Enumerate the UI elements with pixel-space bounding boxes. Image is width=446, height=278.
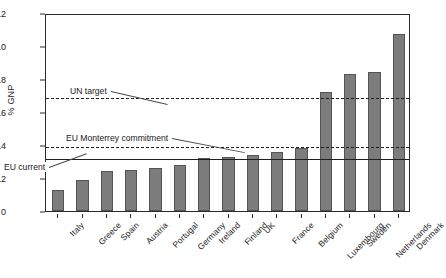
bar-luxembourg [320,92,333,211]
bar-italy [52,190,65,211]
x-tick-mark [57,214,58,218]
x-tick-mark [82,214,83,218]
x-tick-mark [349,214,350,218]
reference-label-eu-monterrey-commitment: EU Monterrey commitment [64,133,170,143]
y-tick-label: 1.2 [0,9,6,19]
x-tick-label-austria: Austria [144,220,170,246]
x-tick-label-italy: Italy [68,220,86,238]
x-tick-mark [301,214,302,218]
y-axis-label: % GNP [6,69,16,131]
reference-line-un-target [46,98,409,99]
x-tick-mark [106,214,107,218]
bar-france [271,152,284,211]
plot-area: UN targetEU Monterrey commitmentEU curre… [45,14,410,212]
reference-line-eu-current [46,159,409,160]
bar-ireland [198,158,211,211]
y-tick-label: 0.4 [0,141,6,151]
y-tick-label: 1.0 [0,42,6,52]
bar-series [46,15,409,211]
bar-netherlands [368,72,381,211]
bar-sweden [344,74,357,211]
y-tick-label: 0.2 [0,174,6,184]
bar-germany [174,165,187,211]
x-tick-mark [252,214,253,218]
x-tick-mark [374,214,375,218]
x-tick-mark [179,214,180,218]
reference-label-eu-current: EU current [2,162,47,172]
x-tick-mark [276,214,277,218]
x-tick-label-france: France [290,220,316,246]
x-tick-label-belgium: Belgium [316,220,345,249]
y-tick-label: 0.6 [0,108,6,118]
bar-finland [222,157,235,211]
x-tick-mark [155,214,156,218]
x-axis-labels: ItalyGreeceSpainAustriaPortugalGermanyIr… [45,214,410,278]
x-tick-mark [398,214,399,218]
y-tick-label: 0.8 [0,75,6,85]
y-tick-label: 0 [0,207,6,217]
x-tick-mark [228,214,229,218]
bar-spain [101,171,114,211]
bar-uk [247,155,260,211]
x-tick-mark [325,214,326,218]
x-tick-label-spain: Spain [118,220,141,243]
bar-austria [125,170,138,211]
x-tick-mark [130,214,131,218]
x-tick-mark [203,214,204,218]
bar-denmark [393,34,406,211]
reference-label-un-target: UN target [68,86,109,96]
bar-portugal [149,168,162,211]
bar-greece [76,180,89,211]
